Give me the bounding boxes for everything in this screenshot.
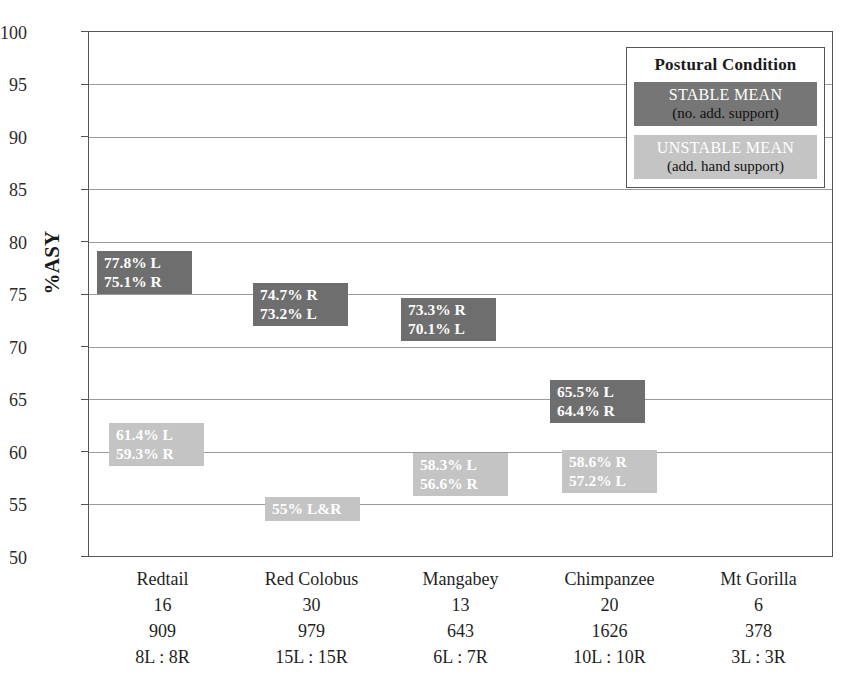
gridline-65 xyxy=(89,399,832,400)
x-axis-group-observations: 979 xyxy=(237,618,386,644)
x-axis-group-subjects: 6 xyxy=(684,592,833,618)
x-axis-group-mt-gorilla: Mt Gorilla 6 378 3L : 3R xyxy=(684,566,833,670)
plot-area: 77.8% L 75.1% R 61.4% L 59.3% R 74.7% R … xyxy=(88,31,833,557)
datapoint-redtail-stable: 77.8% L 75.1% R xyxy=(97,251,192,294)
x-axis-group-hand-ratio: 10L : 10R xyxy=(535,644,684,670)
y-tick-mark-100 xyxy=(81,31,88,32)
datapoint-value-secondary: 73.2% L xyxy=(260,304,342,323)
datapoint-chimpanzee-stable: 65.5% L 64.4% R xyxy=(550,380,645,423)
y-tick-label-90: 90 xyxy=(0,129,27,147)
datapoint-value-primary: 58.3% L xyxy=(420,455,502,474)
y-tick-mark-80 xyxy=(81,241,88,242)
gridline-80 xyxy=(89,242,832,243)
datapoint-value-primary: 74.7% R xyxy=(260,285,342,304)
y-tick-mark-95 xyxy=(81,84,88,85)
y-tick-label-80: 80 xyxy=(0,234,27,252)
datapoint-value-primary: 73.3% R xyxy=(408,300,490,319)
gridline-85 xyxy=(89,189,832,190)
x-axis-group-hand-ratio: 15L : 15R xyxy=(237,644,386,670)
x-axis-group-name: Red Colobus xyxy=(237,566,386,592)
y-tick-mark-65 xyxy=(81,399,88,400)
x-axis-group-observations: 378 xyxy=(684,618,833,644)
y-tick-label-70: 70 xyxy=(0,339,27,357)
datapoint-value-primary: 65.5% L xyxy=(557,382,639,401)
y-tick-label-100: 100 xyxy=(0,24,27,42)
y-tick-mark-60 xyxy=(81,451,88,452)
asymmetry-chart: %ASY 100 95 90 85 80 75 70 65 60 55 50 7… xyxy=(0,0,865,682)
x-axis-group-name: Chimpanzee xyxy=(535,566,684,592)
x-axis-group-mangabey: Mangabey 13 643 6L : 7R xyxy=(386,566,535,670)
x-axis-group-observations: 643 xyxy=(386,618,535,644)
y-tick-mark-55 xyxy=(81,504,88,505)
datapoint-value-secondary: 56.6% R xyxy=(420,474,502,493)
datapoint-value-primary: 61.4% L xyxy=(116,425,198,444)
legend-entry-stable-mean[interactable]: STABLE MEAN (no. add. support) xyxy=(634,82,817,126)
y-tick-label-55: 55 xyxy=(0,496,27,514)
legend-entry-sublabel: (add. hand support) xyxy=(638,157,813,175)
datapoint-mangabey-stable: 73.3% R 70.1% L xyxy=(401,298,496,341)
datapoint-redtail-unstable: 61.4% L 59.3% R xyxy=(109,423,204,466)
y-tick-mark-85 xyxy=(81,189,88,190)
datapoint-value-secondary: 57.2% L xyxy=(569,471,651,490)
y-tick-label-75: 75 xyxy=(0,286,27,304)
datapoint-chimpanzee-unstable: 58.6% R 57.2% L xyxy=(562,450,657,493)
legend-entry-label: UNSTABLE MEAN xyxy=(638,138,813,157)
x-axis-group-red-colobus: Red Colobus 30 979 15L : 15R xyxy=(237,566,386,670)
gridline-75 xyxy=(89,294,832,295)
x-axis-group-hand-ratio: 3L : 3R xyxy=(684,644,833,670)
x-axis-group-subjects: 16 xyxy=(88,592,237,618)
x-axis-group-name: Mangabey xyxy=(386,566,535,592)
y-tick-mark-50 xyxy=(81,556,88,557)
y-tick-mark-70 xyxy=(81,346,88,347)
x-axis-group-chimpanzee: Chimpanzee 20 1626 10L : 10R xyxy=(535,566,684,670)
legend-entry-label: STABLE MEAN xyxy=(638,85,813,104)
gridline-70 xyxy=(89,347,832,348)
x-axis-group-hand-ratio: 6L : 7R xyxy=(386,644,535,670)
x-axis-group-name: Redtail xyxy=(88,566,237,592)
legend: Postural Condition STABLE MEAN (no. add.… xyxy=(626,47,825,188)
y-axis-title: %ASY xyxy=(40,203,65,323)
datapoint-mangabey-unstable: 58.3% L 56.6% R xyxy=(413,453,508,496)
datapoint-value-primary: 55% L&R xyxy=(272,499,354,518)
x-axis-group-redtail: Redtail 16 909 8L : 8R xyxy=(88,566,237,670)
y-tick-mark-75 xyxy=(81,294,88,295)
x-axis-group-name: Mt Gorilla xyxy=(684,566,833,592)
legend-entry-unstable-mean[interactable]: UNSTABLE MEAN (add. hand support) xyxy=(634,135,817,179)
y-tick-label-50: 50 xyxy=(0,549,27,567)
gridline-55 xyxy=(89,504,832,505)
y-tick-label-65: 65 xyxy=(0,391,27,409)
x-axis-group-observations: 1626 xyxy=(535,618,684,644)
datapoint-value-secondary: 70.1% L xyxy=(408,319,490,338)
datapoint-value-secondary: 59.3% R xyxy=(116,444,198,463)
datapoint-value-primary: 77.8% L xyxy=(104,253,186,272)
x-axis-group-observations: 909 xyxy=(88,618,237,644)
y-tick-label-95: 95 xyxy=(0,76,27,94)
y-tick-mark-90 xyxy=(81,136,88,137)
x-axis-group-subjects: 13 xyxy=(386,592,535,618)
datapoint-value-secondary: 75.1% R xyxy=(104,272,186,291)
datapoint-value-secondary: 64.4% R xyxy=(557,401,639,420)
datapoint-red-colobus-unstable: 55% L&R xyxy=(265,497,360,521)
y-tick-label-85: 85 xyxy=(0,181,27,199)
datapoint-value-primary: 58.6% R xyxy=(569,452,651,471)
y-tick-label-60: 60 xyxy=(0,444,27,462)
x-axis-group-subjects: 30 xyxy=(237,592,386,618)
legend-title: Postural Condition xyxy=(634,55,817,75)
x-axis-group-hand-ratio: 8L : 8R xyxy=(88,644,237,670)
x-axis-group-subjects: 20 xyxy=(535,592,684,618)
legend-entry-sublabel: (no. add. support) xyxy=(638,104,813,122)
datapoint-red-colobus-stable: 74.7% R 73.2% L xyxy=(253,283,348,326)
